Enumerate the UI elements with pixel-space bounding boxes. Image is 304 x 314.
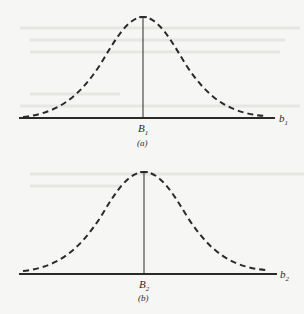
bell-curve-a — [23, 17, 265, 117]
figure-panel-a: B1 b1 (a) — [0, 0, 304, 160]
caption-a: (a) — [137, 138, 148, 148]
center-label-a: B1 — [138, 122, 148, 137]
axis-label-b: b2 — [280, 268, 290, 283]
caption-b: (b) — [138, 293, 149, 303]
axis-label-a: b1 — [279, 112, 288, 127]
center-label-b: B2 — [139, 278, 150, 293]
figure-panel-b: B2 b2 (b) — [0, 160, 304, 314]
